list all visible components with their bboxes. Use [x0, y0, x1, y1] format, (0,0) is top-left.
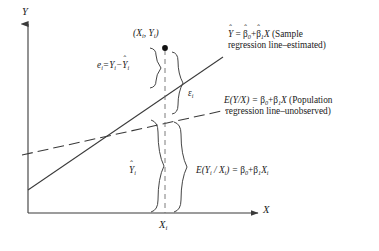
hat-accent: ˆ	[256, 24, 261, 33]
fitted-label: ˆYi	[129, 165, 136, 176]
x-tick-subscript: i	[165, 224, 167, 231]
y-axis-label: Y	[22, 6, 28, 18]
data-point	[162, 45, 168, 51]
population-line-description: regression line–unobserved)	[224, 106, 332, 117]
population-regression-line	[22, 110, 226, 155]
cm-lead: E(Y	[196, 165, 210, 175]
hat-accent: ˆ	[228, 24, 233, 33]
paren-close: )	[156, 28, 159, 38]
data-point-label: (Xi, Yi)	[133, 28, 159, 39]
error-label: εi	[188, 88, 193, 99]
cm-slash: / X	[212, 165, 225, 175]
sample-regression-line	[28, 57, 223, 190]
brace-fitted	[151, 120, 164, 212]
srl-beta1: ˆβ	[256, 29, 261, 40]
brace-residual	[150, 48, 161, 88]
hat-accent: ˆ	[122, 55, 127, 64]
residual-Yhat: ˆY	[122, 60, 127, 71]
srl-Yhat: ˆY	[228, 29, 233, 40]
cm-var-sub: i	[267, 170, 269, 176]
sample-line-label: ˆY = ˆβ0+ˆβ1X (Sample regression line–es…	[228, 29, 326, 51]
sample-line-equation: ˆY = ˆβ0+ˆβ1X (Sample	[228, 29, 303, 40]
brace-conditional-mean	[174, 122, 187, 212]
fitted-subscript: i	[134, 170, 136, 176]
regression-diagram: Y X Xi (Xi, Yi) ei=Yi−ˆYi εi ˆYi E(Yi / …	[0, 0, 379, 251]
residual-Yhat-subscript: i	[127, 65, 129, 71]
population-line-label: E(Y/X) = β0+β1X (Population regression l…	[224, 95, 332, 117]
hat-accent: ˆ	[129, 160, 134, 169]
srl-beta0: ˆβ	[243, 29, 248, 40]
population-line-equation: E(Y/X) = β0+β1X (Population	[224, 95, 332, 106]
srl-tail: (Sample	[270, 29, 303, 39]
hat-accent: ˆ	[243, 24, 248, 33]
conditional-mean-label: E(Yi / Xi) = β0+β1Xi	[196, 165, 269, 176]
cm-close: ) =	[226, 165, 240, 175]
fitted-Yhat: ˆY	[129, 165, 134, 176]
error-subscript: i	[192, 93, 194, 99]
srl-equals: =	[233, 29, 243, 39]
prl-lead: E(Y/X) =	[224, 95, 260, 105]
residual-label: ei=Yi−ˆYi	[97, 60, 129, 71]
brace-error	[172, 52, 183, 114]
x-axis-label: X	[263, 204, 269, 216]
sample-line-description: regression line–estimated)	[228, 40, 326, 51]
prl-tail: (Population	[287, 95, 333, 105]
x-tick-label: Xi	[159, 219, 167, 231]
